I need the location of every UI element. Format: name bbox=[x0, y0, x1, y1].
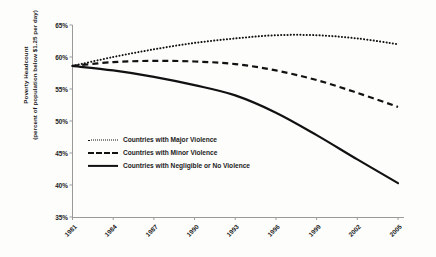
poverty-headcount-line-chart: Poverty Headcount (percent of population… bbox=[0, 0, 436, 257]
solid-line-icon bbox=[88, 162, 118, 170]
x-axis-tick-labels: 198119841987199019931996199920022005 bbox=[0, 0, 436, 257]
legend-item-label: Countries with Major Violence bbox=[123, 136, 217, 143]
x-axis-tick-label: 1984 bbox=[85, 223, 118, 256]
x-axis-tick-label: 1990 bbox=[166, 223, 199, 256]
x-axis-tick-label: 1987 bbox=[126, 223, 159, 256]
x-axis-tick-label: 1993 bbox=[207, 223, 240, 256]
legend-item-major-violence: Countries with Major Violence bbox=[88, 133, 250, 146]
legend-item-minor-violence: Countries with Minor Violence bbox=[88, 146, 250, 159]
legend-item-label: Countries with Minor Violence bbox=[123, 149, 217, 156]
x-axis-tick-label: 2002 bbox=[329, 223, 362, 256]
legend-item-negligible-violence: Countries with Negligible or No Violence bbox=[88, 159, 250, 172]
x-axis-tick-label: 1981 bbox=[44, 223, 77, 256]
x-axis-tick-label: 1999 bbox=[288, 223, 321, 256]
legend-item-label: Countries with Negligible or No Violence bbox=[123, 162, 250, 169]
dotted-line-icon bbox=[88, 136, 118, 144]
x-axis-tick-label: 1996 bbox=[248, 223, 281, 256]
x-axis-tick-label: 2005 bbox=[370, 223, 403, 256]
legend: Countries with Major Violence Countries … bbox=[88, 133, 250, 172]
dashed-line-icon bbox=[88, 149, 118, 157]
